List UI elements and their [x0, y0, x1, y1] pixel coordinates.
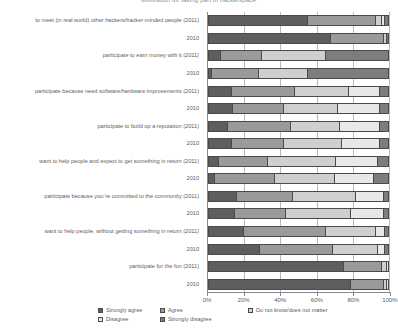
- legend-swatch-icon: [160, 317, 165, 322]
- bar-segment: [293, 191, 356, 202]
- bar-segment: [260, 244, 332, 255]
- bar-row: [208, 156, 389, 167]
- bar-segment: [208, 15, 308, 26]
- bar-segment: [380, 86, 389, 97]
- bar-row: [208, 68, 389, 79]
- bar-segment: [284, 138, 342, 149]
- bar-row: [208, 121, 389, 132]
- bar-segment: [268, 156, 337, 167]
- bar-segment: [233, 103, 284, 114]
- category-label: participate because need software/hardwa…: [35, 86, 199, 97]
- bar-segment: [208, 33, 331, 44]
- bar-segment: [385, 226, 389, 237]
- bar-segment: [215, 173, 275, 184]
- bar-segment: [349, 86, 380, 97]
- category-label: 2010: [187, 173, 199, 184]
- bar-segment: [232, 86, 295, 97]
- bar-segment: [356, 191, 383, 202]
- category-label: participate to earn money with it (2011): [103, 50, 199, 61]
- bar-segment: [259, 68, 308, 79]
- category-label: participate for the fun (2011): [129, 261, 199, 272]
- legend-swatch-icon: [160, 308, 165, 313]
- bar-segment: [326, 226, 377, 237]
- x-tick-label: 60%: [311, 297, 323, 303]
- bar-segment: [308, 68, 389, 79]
- bar-segment: [384, 191, 389, 202]
- bar-segment: [387, 261, 389, 272]
- legend-label: Do not know/does not matter: [256, 307, 328, 313]
- bar-row: [208, 279, 389, 290]
- bar-segment: [244, 226, 325, 237]
- bar-segment: [387, 279, 389, 290]
- bar-segment: [228, 121, 291, 132]
- bar-segment: [380, 103, 389, 114]
- bar-segment: [295, 86, 349, 97]
- bar-segment: [208, 191, 237, 202]
- bar-segment: [385, 244, 389, 255]
- legend-item[interactable]: Disagree: [98, 316, 128, 322]
- bar-row: [208, 103, 389, 114]
- bar-segment: [385, 15, 389, 26]
- legend-item[interactable]: Strongly agree: [98, 307, 142, 313]
- category-label: participate because you`re committed to …: [44, 191, 199, 202]
- x-tick-label: 100%: [382, 297, 397, 303]
- bar-segment: [378, 244, 385, 255]
- x-tick: [390, 292, 391, 296]
- legend-label: Strongly agree: [106, 307, 142, 313]
- category-label: to meet (in real world) other hackers/ha…: [35, 15, 199, 26]
- bar-segment: [237, 191, 293, 202]
- bar-row: [208, 244, 389, 255]
- x-tick-label: 0%: [203, 297, 212, 303]
- legend-item[interactable]: Strongly disagree: [160, 316, 212, 322]
- bar-row: [208, 86, 389, 97]
- bar-row: [208, 15, 389, 26]
- category-label: want to help people and expect to get so…: [39, 156, 199, 167]
- bar-segment: [208, 86, 232, 97]
- legend-label: Agree: [168, 307, 183, 313]
- category-label: 2010: [187, 244, 199, 255]
- bar-segment: [308, 15, 377, 26]
- bar-row: [208, 173, 389, 184]
- bar-rows: [208, 12, 389, 293]
- bar-segment: [221, 50, 263, 61]
- bar-row: [208, 138, 389, 149]
- category-label: 2010: [187, 279, 199, 290]
- legend-item[interactable]: Agree: [160, 307, 183, 313]
- bar-segment: [374, 173, 388, 184]
- category-label: 2010: [187, 103, 199, 114]
- x-tick-label: 20%: [238, 297, 250, 303]
- category-label: 2010: [187, 138, 199, 149]
- bar-segment: [333, 244, 378, 255]
- bar-segment: [326, 50, 389, 61]
- bar-segment: [208, 103, 233, 114]
- chart-legend: Strongly agreeAgreeDo not know/does not …: [98, 307, 388, 331]
- bar-segment: [338, 103, 380, 114]
- x-tick: [353, 292, 354, 296]
- bar-segment: [387, 33, 389, 44]
- bar-segment: [291, 121, 340, 132]
- category-label: want to help people, without getting som…: [45, 226, 199, 237]
- bar-segment: [335, 173, 375, 184]
- legend-item[interactable]: Do not know/does not matter: [248, 307, 328, 313]
- bar-segment: [208, 279, 351, 290]
- legend-swatch-icon: [98, 317, 103, 322]
- bar-segment: [262, 50, 325, 61]
- bar-segment: [208, 138, 232, 149]
- x-axis-tick-labels: 0%20%40%60%80%100%: [207, 297, 390, 307]
- bar-segment: [212, 68, 259, 79]
- bar-segment: [351, 208, 384, 219]
- bar-segment: [208, 244, 260, 255]
- bar-segment: [208, 156, 219, 167]
- bar-segment: [219, 156, 268, 167]
- bar-segment: [380, 138, 389, 149]
- legend-label: Disagree: [106, 316, 128, 322]
- bar-segment: [208, 261, 344, 272]
- bar-segment: [208, 173, 215, 184]
- bar-segment: [235, 208, 286, 219]
- bar-row: [208, 191, 389, 202]
- category-label: participate to build up a reputation (20…: [97, 121, 199, 132]
- bar-segment: [340, 121, 380, 132]
- legend-swatch-icon: [98, 308, 103, 313]
- bar-segment: [376, 226, 385, 237]
